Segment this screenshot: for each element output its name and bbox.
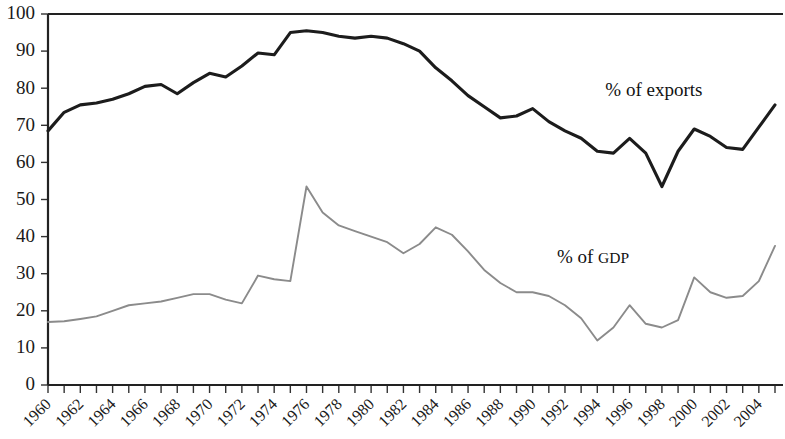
x-axis-tick-label: 1978: [310, 395, 345, 430]
series-label-gdp: % of GDP: [557, 246, 629, 267]
x-axis-tick-label: 2002: [698, 395, 733, 430]
x-axis-tick-label: 2004: [730, 395, 765, 430]
x-axis-tick-label: 1996: [601, 395, 636, 430]
x-axis-tick-label: 1960: [19, 395, 54, 430]
y-axis-tick-label: 60: [16, 151, 35, 172]
x-axis-tick-label: 1964: [84, 395, 119, 430]
x-axis-tick-label: 1980: [343, 395, 378, 430]
y-axis-tick-label: 30: [16, 262, 35, 283]
x-axis-tick-labels: 1960196219641966196819701972197419761978…: [19, 395, 764, 430]
y-axis-tick-label: 10: [16, 336, 35, 357]
x-axis-tick-label: 2000: [666, 395, 701, 430]
x-axis-tick-label: 1972: [213, 395, 248, 430]
y-axis-tick-label: 70: [16, 114, 35, 135]
y-axis-tick-label: 20: [16, 299, 35, 320]
y-axis-tick-label: 90: [16, 39, 35, 60]
x-axis-tick-label: 1970: [181, 395, 216, 430]
series-line-gdp: [48, 187, 775, 341]
x-axis-tick-label: 1976: [278, 395, 313, 430]
x-axis-ticks: [48, 385, 775, 393]
x-axis-tick-label: 1994: [569, 395, 604, 430]
x-axis-tick-label: 1966: [116, 395, 151, 430]
x-axis-tick-label: 1988: [472, 395, 507, 430]
series-line-exports: [48, 31, 775, 187]
x-axis-tick-label: 1962: [52, 395, 87, 430]
y-axis-tick-label: 50: [16, 188, 35, 209]
y-axis-tick-label: 100: [7, 2, 36, 23]
y-axis-tick-label: 40: [16, 225, 35, 246]
x-axis-tick-label: 1986: [440, 395, 475, 430]
x-axis-tick-label: 1992: [536, 395, 571, 430]
chart-container: 0102030405060708090100 19601962196419661…: [0, 0, 785, 439]
series-label-gdp-suffix: GDP: [598, 249, 629, 266]
series-label-gdp-prefix: % of: [557, 246, 598, 267]
x-axis-tick-label: 1974: [246, 395, 281, 430]
x-axis-tick-label: 1998: [633, 395, 668, 430]
y-axis-tick-labels: 0102030405060708090100: [7, 2, 36, 394]
x-axis-tick-label: 1984: [407, 395, 442, 430]
x-axis-tick-label: 1990: [504, 395, 539, 430]
line-chart: 0102030405060708090100 19601962196419661…: [0, 0, 785, 439]
x-axis-tick-label: 1968: [149, 395, 184, 430]
y-axis-tick-label: 80: [16, 77, 35, 98]
series-label-exports: % of exports: [605, 79, 702, 100]
x-axis-tick-label: 1982: [375, 395, 410, 430]
y-axis-tick-label: 0: [26, 373, 36, 394]
